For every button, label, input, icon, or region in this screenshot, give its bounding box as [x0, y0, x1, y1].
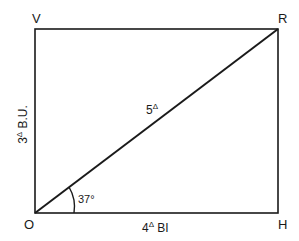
bottom-side-unit: BI	[154, 221, 169, 235]
bottom-side-value: 4	[142, 221, 149, 235]
triangle-diagram	[0, 0, 299, 241]
left-side-value: 3	[16, 137, 30, 144]
diagonal-line	[35, 29, 278, 213]
bottom-side-label: 4Δ BI	[142, 221, 169, 234]
left-side-unit: B.U.	[16, 105, 30, 132]
vertex-label-o: O	[24, 218, 34, 231]
delta-superscript: Δ	[153, 102, 158, 111]
vertex-label-h: H	[278, 218, 287, 231]
angle-label: 37°	[78, 194, 95, 205]
vertex-label-r: R	[278, 12, 287, 25]
diagonal-length-label: 5Δ	[146, 103, 158, 116]
angle-arc	[69, 187, 74, 213]
vertex-label-v: V	[32, 12, 41, 25]
diagonal-length-value: 5	[146, 103, 153, 117]
left-side-label: 3Δ B.U.	[16, 97, 29, 153]
delta-superscript: Δ	[15, 132, 24, 137]
